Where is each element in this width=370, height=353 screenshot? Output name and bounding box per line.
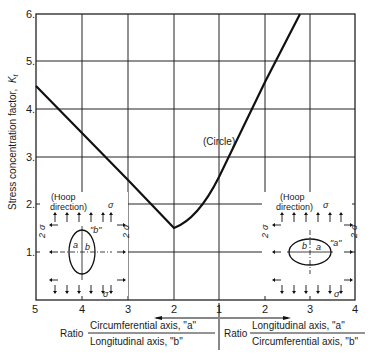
svg-text:σ: σ — [37, 224, 47, 230]
svg-text:σ: σ — [108, 200, 114, 210]
svg-text:1.: 1. — [26, 246, 35, 258]
svg-text:3: 3 — [307, 303, 313, 315]
svg-text:a: a — [316, 242, 321, 252]
svg-text:3.: 3. — [26, 151, 35, 163]
svg-text:b: b — [85, 242, 90, 252]
svg-text:"a": "a" — [330, 238, 342, 248]
svg-text:direction): direction) — [50, 202, 87, 212]
svg-text:b: b — [302, 241, 307, 251]
svg-text:Circumferential axis, "b": Circumferential axis, "b" — [252, 336, 358, 347]
svg-text:Longitudinal axis, "b": Longitudinal axis, "b" — [90, 336, 183, 347]
stress-concentration-chart: 6. 5. 4. 3. 2. 1. Stress concentration f… — [0, 0, 370, 353]
svg-text:5: 5 — [32, 303, 38, 315]
y-axis-label: Stress concentration factor, Kt — [7, 73, 19, 210]
svg-text:2: 2 — [260, 233, 270, 239]
svg-text:2: 2 — [349, 233, 359, 239]
svg-text:2: 2 — [37, 233, 47, 239]
svg-text:Ratio: Ratio — [60, 328, 84, 339]
svg-text:4: 4 — [352, 303, 358, 315]
circle-annotation: (Circle) — [203, 136, 235, 147]
svg-text:σ: σ — [103, 289, 109, 299]
svg-text:3: 3 — [125, 303, 131, 315]
svg-text:5.: 5. — [26, 55, 35, 67]
svg-text:2: 2 — [171, 303, 177, 315]
svg-text:direction): direction) — [276, 202, 313, 212]
svg-text:4: 4 — [79, 303, 85, 315]
svg-text:a: a — [73, 240, 78, 250]
svg-text:Longitudinal axis, "a": Longitudinal axis, "a" — [252, 320, 345, 331]
svg-text:"b": "b" — [90, 225, 102, 235]
svg-text:σ: σ — [323, 200, 329, 210]
x-axis-label-left: Ratio Circumferential axis, "a" Longitud… — [60, 320, 215, 347]
x-axis-label-right: Ratio Longitudinal axis, "a" Circumferen… — [224, 320, 365, 347]
svg-text:σ: σ — [121, 224, 131, 230]
svg-text:4.: 4. — [26, 103, 35, 115]
svg-text:2.: 2. — [26, 198, 35, 210]
svg-text:(Hoop: (Hoop — [51, 192, 76, 202]
svg-text:σ: σ — [349, 224, 359, 230]
svg-text:Ratio: Ratio — [224, 328, 248, 339]
svg-text:σ: σ — [260, 224, 270, 230]
x-axis-ticks: 5 4 3 2 1 2 3 4 — [32, 303, 358, 315]
svg-text:Circumferential axis, "a": Circumferential axis, "a" — [90, 320, 196, 331]
svg-text:2: 2 — [262, 303, 268, 315]
y-axis-ticks: 6. 5. 4. 3. 2. 1. — [26, 8, 35, 258]
svg-text:6.: 6. — [26, 8, 35, 20]
svg-text:(Hoop: (Hoop — [280, 192, 305, 202]
svg-text:σ: σ — [334, 289, 340, 299]
svg-text:2: 2 — [121, 233, 131, 239]
